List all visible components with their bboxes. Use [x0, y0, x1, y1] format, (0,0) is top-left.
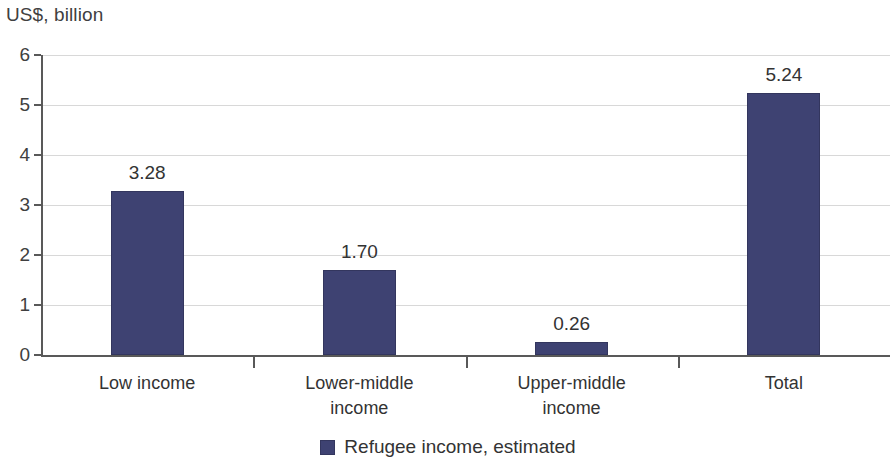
bar [323, 270, 396, 355]
x-axis-category-label: Lower-middleincome [253, 371, 465, 421]
y-axis-tick-labels: 0123456 [0, 0, 30, 468]
legend-swatch-refugee-income [320, 440, 335, 455]
legend-label-refugee-income: Refugee income, estimated [344, 436, 575, 458]
x-axis-category-label-line: income [253, 396, 465, 421]
bar-value-label: 0.26 [512, 314, 632, 333]
x-axis-tick-mark [678, 357, 680, 368]
y-axis-tick-label: 0 [4, 345, 30, 364]
x-axis-category-label: Low income [41, 371, 253, 396]
y-axis-tick-mark [34, 154, 41, 156]
bar-value-label: 5.24 [724, 65, 844, 84]
bar-chart: US$, billion 0123456 3.281.700.265.24 Lo… [0, 0, 896, 468]
y-axis-line [41, 55, 43, 357]
x-axis-tick-mark [466, 357, 468, 368]
y-axis-tick-mark [34, 304, 41, 306]
gridline [41, 55, 890, 56]
y-axis-tick-label: 5 [4, 95, 30, 114]
y-axis-tick-mark [34, 354, 41, 356]
x-axis-tick-mark [253, 357, 255, 368]
bar [535, 342, 608, 355]
bar-value-label: 1.70 [299, 242, 419, 261]
y-axis-tick-label: 6 [4, 45, 30, 64]
bar-value-label: 3.28 [87, 163, 207, 182]
y-axis-tick-label: 4 [4, 145, 30, 164]
x-axis-category-label-line: income [466, 396, 678, 421]
chart-legend: Refugee income, estimated [0, 436, 896, 458]
y-axis-tick-label: 3 [4, 195, 30, 214]
y-axis-tick-mark [34, 104, 41, 106]
bar [111, 191, 184, 355]
y-axis-tick-mark [34, 54, 41, 56]
x-axis-category-label: Total [678, 371, 890, 396]
x-axis-category-label-line: Lower-middle [253, 371, 465, 396]
y-axis-tick-mark [34, 204, 41, 206]
x-axis-category-label: Upper-middleincome [466, 371, 678, 421]
x-axis-category-label-line: Total [678, 371, 890, 396]
y-axis-tick-label: 2 [4, 245, 30, 264]
x-axis-category-label-line: Low income [41, 371, 253, 396]
y-axis-tick-label: 1 [4, 295, 30, 314]
y-axis-tick-mark [34, 254, 41, 256]
x-axis-category-label-line: Upper-middle [466, 371, 678, 396]
bar [747, 93, 820, 355]
